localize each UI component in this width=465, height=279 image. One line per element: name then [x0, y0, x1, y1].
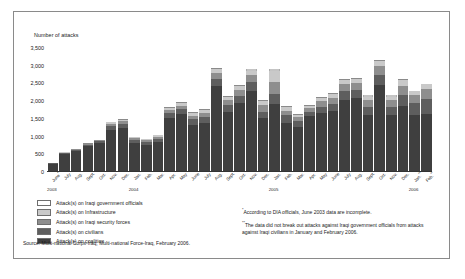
bar-segment: [281, 115, 292, 122]
bar-segment: [176, 114, 187, 171]
bar-segment: [409, 95, 420, 103]
bar-segment: [374, 75, 385, 86]
bar-segment: [129, 143, 140, 171]
x-axis-year-label: 2005: [269, 187, 279, 192]
y-axis-tick-label: 0: [41, 169, 44, 175]
bar-segment: [246, 75, 257, 82]
bar-segment: [363, 107, 374, 115]
bar-column: [153, 48, 164, 171]
bar-segment: [374, 66, 385, 75]
bar-segment: [421, 89, 432, 99]
legend-item: Attack(s) on civilians: [37, 227, 227, 237]
bar-segment: [269, 94, 280, 104]
y-axis-tick-label: 3,000: [31, 63, 45, 69]
bar-column: [293, 48, 304, 171]
bar-column: [59, 48, 70, 171]
footnote: *According to DIA officials, June 2003 d…: [242, 207, 440, 215]
bar-column: [211, 48, 222, 171]
bar-column: [304, 48, 315, 171]
bar-segment: [339, 91, 350, 100]
legend-swatch: [37, 228, 51, 235]
legend-label: Attack(s) on civilians: [56, 229, 103, 235]
legend-swatch: [37, 219, 51, 226]
source-line: Source: Multi-national Corps-Iraq, Multi…: [23, 240, 190, 246]
bar-segment: [269, 104, 280, 171]
chart-footnotes: *According to DIA officials, June 2003 d…: [242, 207, 440, 240]
bar-column: [129, 48, 140, 171]
bar-column: [281, 48, 292, 171]
bar-segment: [386, 107, 397, 115]
bar-segment: [211, 86, 222, 171]
bar-segment: [269, 71, 280, 82]
bar-segment: [374, 85, 385, 171]
bar-column: [421, 48, 432, 171]
bar-column: [316, 48, 327, 171]
bar-segment: [94, 143, 105, 171]
bar-segment: [351, 83, 362, 90]
bar-column: [363, 48, 374, 171]
bar-segment: [386, 100, 397, 107]
bar-segment: [363, 100, 374, 107]
bar-segment: [269, 82, 280, 94]
plot-area: 3,5003,0002,5002,0001,5001,0005000: [47, 48, 432, 172]
y-axis-tick-label: 2,500: [31, 80, 45, 86]
y-axis-title: Number of attacks: [34, 32, 79, 38]
x-axis-year-label: 2004: [129, 187, 139, 192]
bar-segment: [234, 103, 245, 171]
legend-swatch: [37, 209, 51, 216]
bar-column: [199, 48, 210, 171]
bar-column: [48, 48, 59, 171]
bar-segment: [223, 105, 234, 112]
bar-column: [409, 48, 420, 171]
bar-column: [94, 48, 105, 171]
bar-segment: [153, 142, 164, 171]
bar-segment: [199, 123, 210, 171]
bar-segment: [328, 104, 339, 111]
bar-segment: [188, 125, 199, 171]
figure-frame: Number of attacks 3,5003,0002,5002,0001,…: [13, 11, 450, 259]
x-axis-year-label: 2006: [409, 187, 419, 192]
bar-segment: [398, 95, 409, 106]
bar-segment: [421, 114, 432, 171]
bar-column: [176, 48, 187, 171]
bar-column: [398, 48, 409, 171]
bar-segment: [386, 115, 397, 171]
bar-segment: [246, 91, 257, 171]
legend-item: Attack(s) on Iraqi security forces: [37, 217, 227, 227]
bar-segment: [409, 115, 420, 171]
bar-segment: [316, 113, 327, 171]
bar-column: [83, 48, 94, 171]
bar-segment: [223, 112, 234, 171]
x-axis-labels: June*JulyAug.Sept.Oct.Nov.Dec.Jan.Feb.Ma…: [47, 173, 432, 187]
bar-segment: [258, 112, 269, 119]
bar-column: [234, 48, 245, 171]
chart-legend: Attack(s) on Iraqi government officialsA…: [37, 198, 227, 246]
bar-column: [351, 48, 362, 171]
legend-item: Attack(s) on Infrastructure: [37, 208, 227, 218]
legend-swatch: [37, 200, 51, 207]
y-axis-tick-label: 3,500: [31, 45, 45, 51]
y-axis-tick-label: 500: [35, 151, 44, 157]
bar-segment: [339, 100, 350, 171]
legend-label: Attack(s) on Infrastructure: [56, 209, 116, 215]
bar-segment: [281, 123, 292, 171]
bar-segment: [328, 111, 339, 171]
bar-segment: [71, 151, 82, 171]
bar-segment: [409, 103, 420, 115]
bar-column: [374, 48, 385, 171]
footnote: **The data did not break out attacks aga…: [242, 220, 440, 235]
y-axis-tick-label: 1,500: [31, 116, 45, 122]
bar-column: [164, 48, 175, 171]
bar-column: [188, 48, 199, 171]
bar-segment: [351, 90, 362, 98]
legend-item: Attack(s) on Iraqi government officials: [37, 198, 227, 208]
bar-segment: [59, 154, 70, 171]
bar-segment: [398, 86, 409, 96]
legend-label: Attack(s) on Iraqi government officials: [56, 200, 143, 206]
bar-series-group: [47, 48, 432, 171]
bar-segment: [293, 127, 304, 171]
bar-column: [71, 48, 82, 171]
bar-segment: [106, 130, 117, 171]
bar-column: [269, 48, 280, 171]
x-axis-year-label: 2003: [47, 187, 57, 192]
